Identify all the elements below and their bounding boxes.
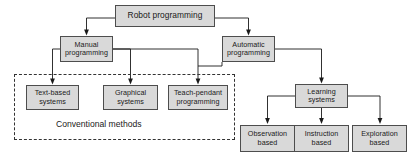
node-observation-based[interactable]: Observation based xyxy=(240,125,295,152)
edge-automatic-to-teach-pendant xyxy=(198,62,222,66)
node-graphical-systems[interactable]: Graphical systems xyxy=(103,85,158,110)
edge-root-to-manual xyxy=(87,18,116,33)
conventional-methods-label: Conventional methods xyxy=(56,119,142,129)
node-manual-programming[interactable]: Manual programming xyxy=(60,36,113,62)
node-automatic-programming[interactable]: Automatic programming xyxy=(222,36,275,62)
node-teach-pendant-programming[interactable]: Teach-pendant programming xyxy=(168,85,228,110)
node-exploration-based[interactable]: Exploration based xyxy=(352,125,407,152)
edge-learning-to-observation xyxy=(268,96,296,121)
edge-root-to-automatic xyxy=(215,18,249,33)
edge-learning-to-exploration xyxy=(348,96,380,121)
node-instruction-based[interactable]: Instruction based xyxy=(294,125,349,152)
node-robot-programming[interactable]: Robot programming xyxy=(115,5,215,27)
diagram-canvas: Robot programming Manual programming Aut… xyxy=(0,0,414,159)
node-learning-systems[interactable]: Learning systems xyxy=(295,84,348,108)
edge-automatic-to-learning xyxy=(275,49,322,81)
node-text-based-systems[interactable]: Text-based systems xyxy=(26,85,79,110)
